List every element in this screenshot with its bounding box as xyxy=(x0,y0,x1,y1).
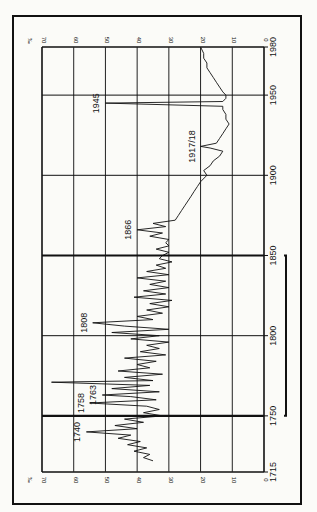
value-tick-label-bottom: 50 xyxy=(104,477,110,484)
year-tick-label: 1715 xyxy=(268,462,278,482)
value-tick-label-bottom: 60 xyxy=(73,477,79,484)
value-tick-label-bottom: 30 xyxy=(168,477,174,484)
value-tick-label-bottom: 20 xyxy=(200,477,206,484)
year-tick-label: 1750 xyxy=(268,406,278,426)
annotation-label: 1866 xyxy=(123,220,133,240)
value-tick-label-top: 20 xyxy=(200,37,206,44)
year-tick-label: 1950 xyxy=(268,85,278,105)
value-tick-label-top: 50 xyxy=(104,37,110,44)
rotated-line-chart: 001010202030304040505060607070‰‰17151750… xyxy=(0,0,317,512)
value-tick-label-top: 70 xyxy=(41,37,47,44)
annotation-label: 1763 xyxy=(88,385,98,405)
value-tick-label-bottom: 40 xyxy=(136,477,142,484)
value-tick-label-top: 60 xyxy=(73,37,79,44)
value-tick-label-bottom: 70 xyxy=(41,477,47,484)
value-tick-label-top: 10 xyxy=(231,37,237,44)
period-bracket xyxy=(284,255,286,415)
value-tick-label-top: 30 xyxy=(168,37,174,44)
year-tick-label: 1800 xyxy=(268,326,278,346)
annotation-label: 1808 xyxy=(79,313,89,333)
unit-label: ‰ xyxy=(27,38,33,44)
annotation-label: 1758 xyxy=(76,393,86,413)
year-tick-label: 1900 xyxy=(268,165,278,185)
annotation-label: 1740 xyxy=(72,422,82,442)
value-tick-label-top: 40 xyxy=(136,37,142,44)
annotation-label: 1917/18 xyxy=(187,130,197,163)
year-tick-label: 1980 xyxy=(268,37,278,57)
annotation-label: 1945 xyxy=(91,93,101,113)
year-tick-label: 1850 xyxy=(268,245,278,265)
value-tick-label-bottom: 10 xyxy=(231,477,237,484)
unit-label: ‰ xyxy=(27,477,33,483)
